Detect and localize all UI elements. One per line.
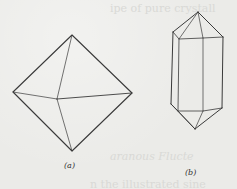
crystal-figure — [0, 0, 237, 189]
octahedron-drawing — [13, 35, 132, 151]
prism-crystal-drawing — [171, 12, 223, 129]
panel-label-b: (b) — [185, 168, 196, 177]
panel-label-a: (a) — [64, 161, 75, 170]
